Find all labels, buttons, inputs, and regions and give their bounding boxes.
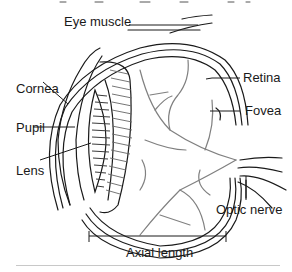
label-cornea: Cornea [16,82,59,95]
label-optic-nerve: Optic nerve [216,203,282,216]
eye-diagram: Eye muscle Cornea Pupil Lens Retina Fove… [0,0,292,272]
label-pupil: Pupil [16,121,45,134]
label-fovea: Fovea [245,104,281,117]
label-eye-muscle: Eye muscle [64,15,131,28]
label-retina: Retina [243,71,281,84]
label-axial-length: Axial length [126,246,193,259]
label-lens: Lens [16,164,44,177]
eye-illustration [0,0,292,272]
divider [16,265,280,266]
